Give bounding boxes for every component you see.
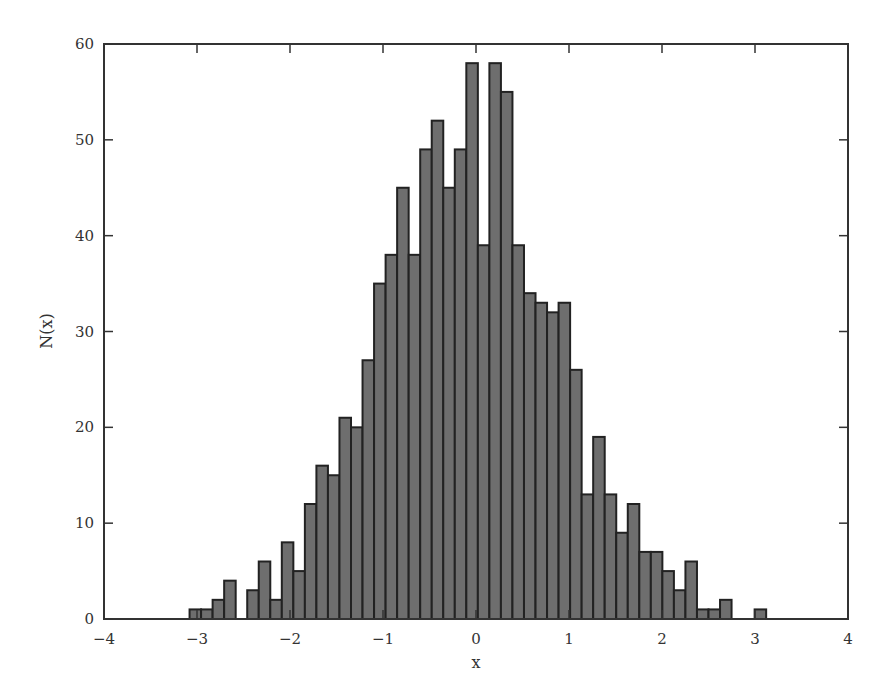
histogram-bar [282,542,294,619]
histogram-bar [685,562,697,620]
histogram-bar [628,504,640,619]
histogram-bar [582,494,594,619]
histogram-bar [293,571,305,619]
histogram-bar [455,149,467,619]
histogram-bar [224,581,236,619]
histogram-bar [547,312,559,619]
histogram-bar [570,370,582,619]
histogram-bar [478,245,490,619]
histogram-bar [651,552,663,619]
y-tick-label: 20 [75,418,94,436]
histogram-bar [363,360,375,619]
histogram-bar [305,504,317,619]
histogram-bar [190,609,202,619]
histogram-bar [512,245,524,619]
y-tick-label: 40 [75,227,94,245]
histogram-bar [351,427,363,619]
x-tick-label: 3 [750,630,760,648]
x-tick-label: 2 [657,630,667,648]
x-tick-label: −4 [93,630,115,648]
histogram-bar [443,188,455,619]
histogram-bar [420,149,432,619]
histogram-bar [755,609,767,619]
histogram-bar [247,590,259,619]
x-tick-label: 4 [843,630,853,648]
histogram-bar [697,609,709,619]
histogram-bar [593,437,605,619]
histogram-bar [201,609,213,619]
histogram-bar [709,609,721,619]
histogram-bar [536,303,548,619]
y-tick-label: 10 [75,514,94,532]
y-tick-labels: 0102030405060 [75,35,94,628]
histogram-bar [489,63,501,619]
histogram-bar [432,121,444,619]
histogram-bar [259,562,271,620]
histogram-bar [605,494,617,619]
x-tick-label: −1 [372,630,394,648]
x-tick-label: 1 [564,630,574,648]
y-tick-label: 0 [84,610,94,628]
histogram-bar [466,63,478,619]
histogram-chart: −4−3−2−101234 0102030405060 x N(x) [0,0,889,700]
histogram-bar [720,600,732,619]
histogram-bars [190,63,767,619]
x-tick-label: −2 [279,630,301,648]
histogram-bar [409,255,421,619]
histogram-bar [386,255,398,619]
x-axis-label: x [471,653,480,672]
histogram-bar [501,92,513,619]
histogram-bar [639,552,651,619]
histogram-bar [213,600,225,619]
histogram-bar [339,418,351,619]
x-tick-labels: −4−3−2−101234 [93,630,853,648]
histogram-bar [616,533,628,619]
histogram-bar [374,284,386,619]
y-tick-label: 30 [75,323,94,341]
histogram-bar [674,590,686,619]
histogram-bar [397,188,409,619]
histogram-bar [270,600,282,619]
histogram-bar [316,466,328,619]
histogram-bar [524,293,536,619]
y-axis-label: N(x) [37,313,56,349]
histogram-bar [662,571,674,619]
histogram-bar [559,303,571,619]
histogram-bar [328,475,340,619]
x-tick-label: 0 [471,630,481,648]
x-tick-label: −3 [186,630,208,648]
y-tick-label: 50 [75,131,94,149]
y-tick-label: 60 [75,35,94,53]
